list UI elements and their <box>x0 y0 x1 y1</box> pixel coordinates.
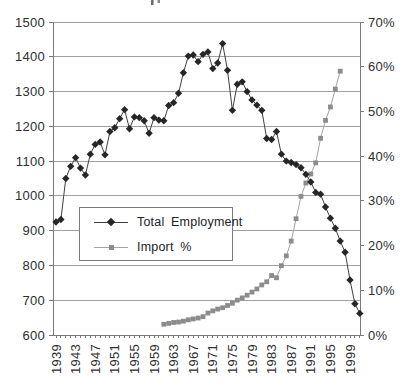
svg-text:60%: 60% <box>368 59 395 74</box>
series-import-pct <box>164 71 340 324</box>
square-marker-icon <box>94 243 128 251</box>
legend-item-total-employment: Total Employment <box>94 210 232 234</box>
legend-label-total-employment: Total Employment <box>137 215 243 229</box>
svg-text:10%: 10% <box>368 283 395 298</box>
svg-text:1971: 1971 <box>205 344 220 374</box>
svg-text:1999: 1999 <box>343 344 358 374</box>
svg-text:70%: 70% <box>368 15 395 30</box>
series-total-employment <box>56 44 360 314</box>
svg-text:0%: 0% <box>368 328 388 343</box>
svg-text:1987: 1987 <box>284 344 299 374</box>
svg-text:1939: 1939 <box>49 344 64 374</box>
import-pct-line <box>164 71 340 324</box>
svg-text:1100: 1100 <box>16 154 45 169</box>
svg-text:900: 900 <box>22 223 45 238</box>
total-employment-markers <box>52 40 363 317</box>
svg-text:600: 600 <box>22 328 45 343</box>
right-axis-labels: 0%10%20%30%40%50%60%70% <box>368 15 395 343</box>
svg-text:1500: 1500 <box>15 15 45 30</box>
svg-text:1991: 1991 <box>303 344 318 374</box>
svg-text:800: 800 <box>22 258 45 273</box>
cropped-title-fragment <box>151 0 160 5</box>
svg-text:50%: 50% <box>368 104 395 119</box>
diamond-marker-icon <box>94 218 128 226</box>
svg-text:1400: 1400 <box>15 49 45 64</box>
legend: Total Employment Import % <box>79 207 233 261</box>
chart-canvas: 6007008009001000110012001300140015000%10… <box>0 0 413 387</box>
svg-text:1943: 1943 <box>68 344 83 374</box>
svg-text:1995: 1995 <box>323 344 338 374</box>
svg-text:700: 700 <box>22 293 45 308</box>
svg-text:1983: 1983 <box>264 344 279 374</box>
svg-text:30%: 30% <box>368 193 395 208</box>
import-pct-markers <box>161 69 342 327</box>
svg-text:1300: 1300 <box>15 84 45 99</box>
svg-text:1975: 1975 <box>225 344 240 374</box>
svg-text:1000: 1000 <box>15 188 45 203</box>
left-axis-labels: 600700800900100011001200130014001500 <box>15 15 45 343</box>
gridlines <box>53 22 360 335</box>
svg-text:1967: 1967 <box>186 344 201 374</box>
svg-text:1963: 1963 <box>166 344 181 374</box>
svg-text:1200: 1200 <box>15 119 45 134</box>
axes <box>49 22 364 338</box>
svg-text:20%: 20% <box>368 238 395 253</box>
svg-text:1979: 1979 <box>245 344 260 374</box>
svg-text:1955: 1955 <box>127 344 142 374</box>
chart: 6007008009001000110012001300140015000%10… <box>0 0 413 387</box>
svg-text:1947: 1947 <box>88 344 103 374</box>
x-axis-labels: 1939194319471951195519591963196719711975… <box>49 344 358 374</box>
svg-text:40%: 40% <box>368 149 395 164</box>
legend-item-import-pct: Import % <box>94 235 232 259</box>
svg-text:1959: 1959 <box>147 344 162 374</box>
total-employment-line <box>56 44 360 314</box>
legend-label-import-pct: Import % <box>137 240 192 254</box>
svg-text:1951: 1951 <box>107 344 122 374</box>
